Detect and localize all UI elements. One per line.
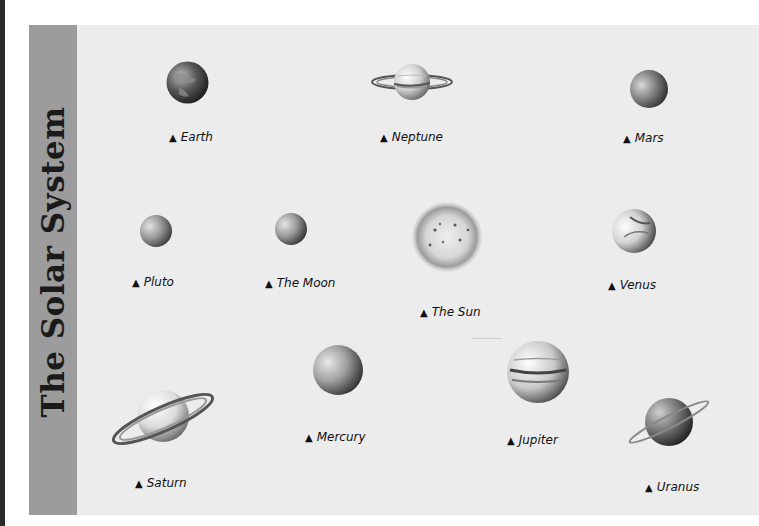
- moon-label: ▲The Moon: [265, 276, 335, 290]
- pluto-label: ▲Pluto: [132, 275, 174, 289]
- pluto-image: [139, 214, 173, 248]
- triangle-bullet-icon: ▲: [305, 432, 313, 443]
- triangle-bullet-icon: ▲: [132, 277, 140, 288]
- earth-label: ▲Earth: [169, 130, 213, 144]
- triangle-bullet-icon: ▲: [623, 133, 631, 144]
- sun-label: ▲The Sun: [420, 305, 481, 319]
- triangle-bullet-icon: ▲: [645, 482, 653, 493]
- moon-image: [274, 212, 308, 246]
- triangle-bullet-icon: ▲: [380, 132, 388, 143]
- neptune-label: ▲Neptune: [380, 130, 443, 144]
- triangle-bullet-icon: ▲: [420, 307, 428, 318]
- left-frame-edge: [0, 0, 5, 526]
- neptune-image: [370, 60, 454, 105]
- saturn-label: ▲Saturn: [135, 476, 187, 490]
- poster-title: The Solar System: [35, 107, 71, 418]
- mars-image: [628, 68, 670, 110]
- triangle-bullet-icon: ▲: [135, 478, 143, 489]
- triangle-bullet-icon: ▲: [507, 435, 515, 446]
- jupiter-image: [506, 340, 570, 404]
- venus-image: [610, 207, 658, 255]
- mars-label: ▲Mars: [623, 131, 664, 145]
- sun-image: [410, 200, 484, 274]
- triangle-bullet-icon: ▲: [265, 278, 273, 289]
- mercury-label: ▲Mercury: [305, 430, 366, 444]
- saturn-image: [108, 383, 218, 451]
- uranus-label: ▲Uranus: [645, 480, 699, 494]
- triangle-bullet-icon: ▲: [169, 132, 177, 143]
- jupiter-label: ▲Jupiter: [507, 433, 558, 447]
- uranus-image: [626, 395, 712, 449]
- divider-line: [472, 338, 502, 339]
- venus-label: ▲Venus: [608, 278, 656, 292]
- mercury-image: [312, 344, 364, 396]
- triangle-bullet-icon: ▲: [608, 280, 616, 291]
- earth-image: [165, 60, 210, 105]
